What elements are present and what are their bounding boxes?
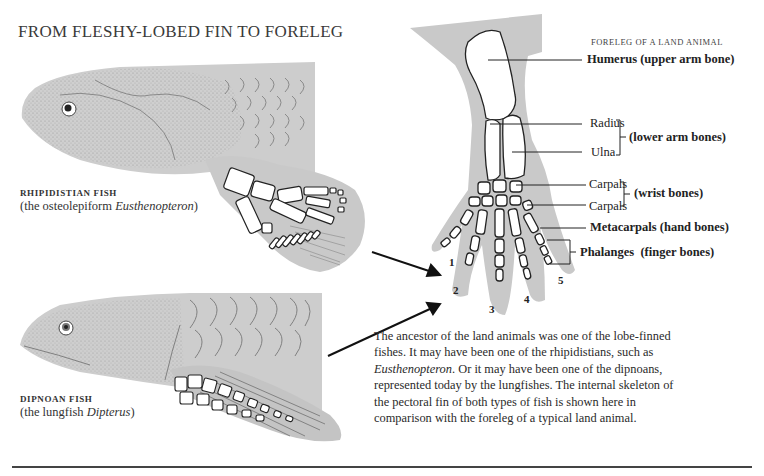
label-phalanges: Phalanges (finger bones) — [580, 245, 714, 260]
label-lower-arm-bones: (lower arm bones) — [629, 130, 726, 145]
phalanges-text: Phalanges — [580, 245, 634, 259]
species-name: Eusthenopteron — [115, 199, 194, 213]
rhipidistian-caption: (the osteolepiform Eusthenopteron) — [20, 199, 198, 214]
digit-number-5: 5 — [558, 274, 564, 286]
dipnoan-label: DIPNOAN FISH — [20, 394, 92, 404]
bottom-rule — [12, 466, 752, 468]
caption-text: ) — [194, 199, 198, 213]
label-wrist-bones: (wrist bones) — [634, 186, 703, 201]
digit-number-2: 2 — [453, 284, 459, 296]
rhipidistian-fish-drawing — [22, 62, 365, 272]
label-carpals-upper: Carpals — [589, 177, 627, 192]
foreleg-title: FORELEG OF A LAND ANIMAL — [591, 37, 723, 47]
caption-text: (the lungfish — [20, 405, 87, 419]
digit-number-3: 3 — [489, 303, 495, 315]
dipnoan-caption: (the lungfish Dipterus) — [20, 405, 135, 420]
label-ulna: Ulna — [591, 145, 615, 160]
explanatory-paragraph: The ancestor of the land animals was one… — [374, 328, 674, 426]
label-metacarpals: Metacarpals (hand bones) — [590, 220, 729, 235]
rhipidistian-label: RHIPIDISTIAN FISH — [20, 188, 117, 198]
label-carpals-lower: Carpals — [589, 199, 627, 214]
caption-text: (the osteolepiform — [20, 199, 115, 213]
label-radius: Radius — [590, 116, 625, 131]
digit-number-1: 1 — [449, 256, 455, 268]
phalanges-note: (finger bones) — [640, 245, 714, 259]
species-name: Dipterus — [87, 405, 131, 419]
digit-number-4: 4 — [524, 293, 530, 305]
label-humerus: Humerus (upper arm bone) — [587, 52, 734, 67]
paragraph-italic: Eusthenopteron — [374, 362, 452, 376]
caption-text: ) — [130, 405, 134, 419]
paragraph-text: The ancestor of the land animals was one… — [374, 329, 671, 359]
